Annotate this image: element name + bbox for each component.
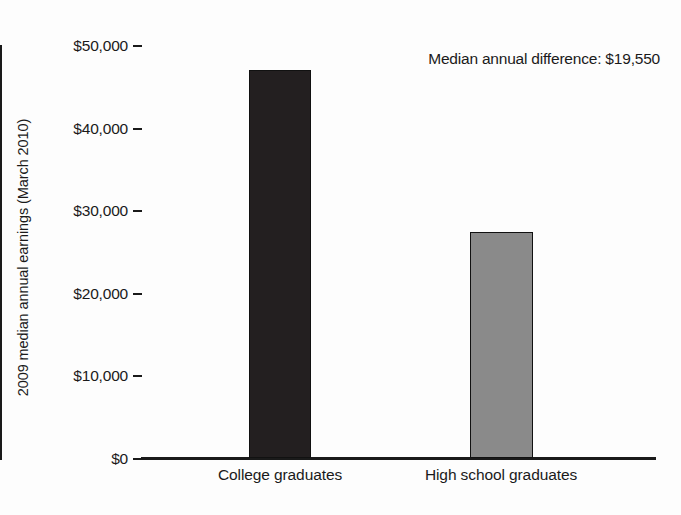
x-category-label-high-school: High school graduates [425,466,577,484]
annotation-median-difference: Median annual difference: $19,550 [300,50,660,68]
y-tick-mark-50000 [133,45,142,47]
bar-high-school-graduates [470,232,533,458]
bar-chart: 2009 median annual earnings (March 2010)… [0,0,681,515]
x-axis-line [141,457,656,460]
y-tick-label-0: $0 [18,450,128,468]
y-tick-label-40000: $40,000 [18,120,128,138]
y-tick-mark-20000 [133,293,142,295]
y-tick-label-30000: $30,000 [18,202,128,220]
y-tick-mark-10000 [133,375,142,377]
y-axis-tick-labels: $50,000 $40,000 $30,000 $20,000 $10,000 … [12,0,128,515]
x-category-label-college: College graduates [218,466,342,484]
y-tick-mark-40000 [133,128,142,130]
y-tick-label-10000: $10,000 [18,367,128,385]
y-tick-label-20000: $20,000 [18,285,128,303]
y-tick-label-50000: $50,000 [18,37,128,55]
bar-college-graduates [249,70,311,458]
y-tick-mark-30000 [133,210,142,212]
y-axis-line [0,45,2,460]
